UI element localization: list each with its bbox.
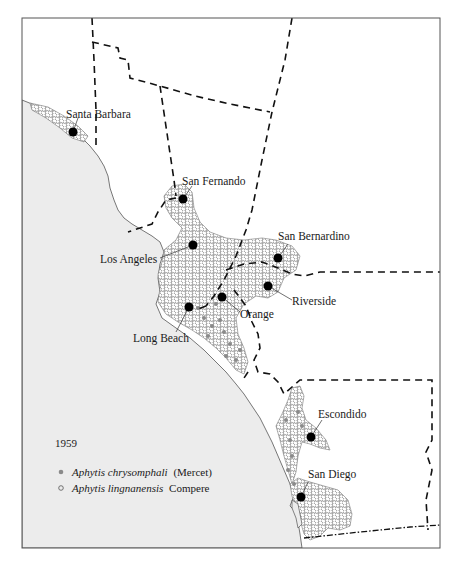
legend-item-lingnanensis: Aphytis lingnanensis Compere xyxy=(71,482,210,494)
legend-authority-chrysomphali: (Mercet) xyxy=(173,466,212,479)
label-long-beach: Long Beach xyxy=(133,332,189,345)
legend-authority-lingnanensis: Compere xyxy=(169,482,209,494)
label-santa-barbara: Santa Barbara xyxy=(66,108,131,120)
city-dot-san-fernando xyxy=(179,195,188,204)
legend-species-lingnanensis: Aphytis lingnanensis xyxy=(71,482,163,494)
legend-item-chrysomphali: Aphytis chrysomphali (Mercet) xyxy=(71,466,212,479)
label-escondido: Escondido xyxy=(318,408,367,420)
map-canvas: Santa Barbara San Fernando Los Angeles S… xyxy=(0,0,460,564)
label-los-angeles: Los Angeles xyxy=(100,253,158,266)
label-san-bernardino: San Bernardino xyxy=(278,230,350,242)
city-dot-santa-barbara xyxy=(69,128,78,137)
city-dot-los-angeles xyxy=(189,241,198,250)
label-san-diego: San Diego xyxy=(308,468,356,481)
label-orange: Orange xyxy=(240,308,274,321)
city-dot-riverside xyxy=(264,282,273,291)
city-dot-orange xyxy=(218,293,227,302)
city-dot-san-bernardino xyxy=(274,254,283,263)
label-riverside: Riverside xyxy=(292,295,336,307)
city-dot-san-diego xyxy=(297,493,306,502)
legend-year: 1959 xyxy=(55,437,78,449)
legend-species-chrysomphali: Aphytis chrysomphali xyxy=(71,466,168,478)
label-san-fernando: San Fernando xyxy=(182,175,246,187)
city-dot-long-beach xyxy=(185,303,194,312)
city-dot-escondido xyxy=(307,433,316,442)
distribution-map: Santa Barbara San Fernando Los Angeles S… xyxy=(0,0,460,564)
legend-filled-dot-icon xyxy=(59,470,64,475)
